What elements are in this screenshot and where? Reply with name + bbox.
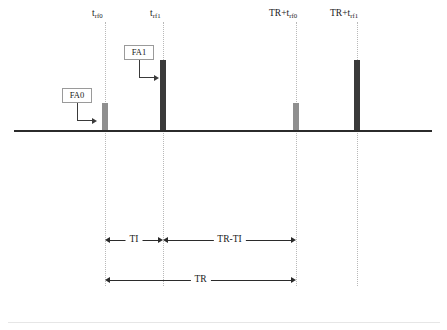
time-guide-tr_trf0 [296, 22, 298, 286]
callout-leader-vertical [77, 103, 78, 120]
pulse-sequence-diagram: trf0trf1TR+trf0TR+trf1 FA0FA1 TITR-TITR [0, 0, 447, 330]
callout-leader-horizontal [77, 120, 92, 121]
measure-label-tr-ti: TR-TI [213, 233, 245, 245]
time-label-subscript: rf1 [350, 12, 358, 19]
timing-measure-ti: TI [105, 235, 163, 247]
time-label-subscript: rf0 [289, 12, 297, 19]
callout-arrowhead-icon [154, 75, 159, 81]
callout-arrowhead-icon [92, 118, 97, 124]
time-label-trf1: trf1 [150, 9, 161, 19]
time-label-subscript: rf0 [95, 12, 103, 19]
measure-arrowhead-right-icon [291, 277, 296, 283]
rf-pulse-rf0-second [293, 103, 299, 130]
time-label-main: TR+t [330, 8, 350, 18]
rf-pulse-rf0-first [102, 103, 108, 130]
measure-label-ti: TI [126, 233, 143, 245]
rf-pulse-rf1-second [354, 60, 360, 130]
time-label-main: TR+t [269, 8, 289, 18]
time-label-trf0: trf0 [92, 9, 103, 19]
flip-angle-callout-fa0: FA0 [62, 88, 92, 103]
callout-leader-fa1 [139, 60, 159, 77]
timing-measure-tr-ti: TR-TI [163, 235, 296, 247]
callout-leader-horizontal [139, 77, 154, 78]
measure-arrowhead-left-icon [163, 237, 168, 243]
measure-label-tr: TR [190, 273, 210, 285]
time-label-tr_trf1: TR+trf1 [330, 9, 358, 19]
timing-measure-tr: TR [105, 275, 296, 287]
flip-angle-callout-fa1: FA1 [124, 45, 154, 60]
measure-arrowhead-right-icon [291, 237, 296, 243]
time-axis-baseline [14, 130, 432, 132]
measure-arrowhead-left-icon [105, 237, 110, 243]
measure-arrowhead-left-icon [105, 277, 110, 283]
time-label-subscript: rf1 [153, 12, 161, 19]
callout-leader-fa0 [77, 103, 97, 120]
figure-bottom-rule [8, 322, 440, 323]
rf-pulse-rf1-first [160, 60, 166, 130]
time-label-tr_trf0: TR+trf0 [269, 9, 297, 19]
callout-leader-vertical [139, 60, 140, 77]
